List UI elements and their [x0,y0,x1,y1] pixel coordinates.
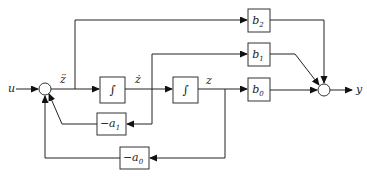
b0-block: b0 [248,78,270,101]
b2-output-line [270,20,324,83]
block-diagram: u z̈ ∫ ż ∫ z b0 b2 b1 y [0,0,367,178]
input-label-u: u [8,82,15,95]
integral-icon: ∫ [182,83,189,97]
b0-sub: 0 [259,90,264,98]
b1-block: b1 [248,43,270,66]
input-summing-junction [39,83,51,95]
neg-a0-sub: 0 [139,158,144,166]
zdd-label: z̈ [59,73,66,86]
output-label-y: y [355,83,363,96]
zd-label: ż [134,73,141,86]
b0-base: b [252,83,259,96]
b1-base: b [252,48,259,61]
neg-a1-base: −a [100,117,116,130]
zd-to-b1-line [152,54,247,89]
neg-a0-block: −a0 [120,147,149,169]
neg-a1-feedback-line [49,94,97,124]
b2-sub: 2 [258,21,264,29]
output-summing-junction [318,84,330,96]
b1-sub: 1 [259,55,263,63]
neg-a0-base: −a [123,151,139,164]
integral-icon: ∫ [109,83,116,97]
b2-base: b [252,14,259,27]
neg-a1-sub: 1 [116,124,120,132]
z-label: z [205,74,212,87]
b2-block: b2 [248,9,270,32]
integrator-1-block: ∫ [100,77,125,103]
neg-a1-block: −a1 [97,113,126,135]
integrator-2-block: ∫ [173,77,198,103]
zd-to-neg-a1-line [127,89,152,124]
b1-output-line [270,54,319,85]
